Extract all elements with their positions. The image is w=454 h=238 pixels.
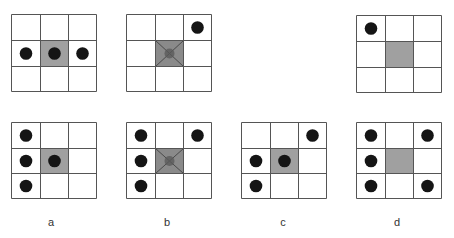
center-cell — [386, 42, 414, 68]
grid-svg — [356, 15, 442, 93]
center-faint-dot — [165, 156, 175, 166]
label-d: d — [387, 216, 407, 228]
dot — [20, 180, 33, 193]
label-a: a — [41, 216, 61, 228]
dot — [365, 129, 378, 142]
dot — [48, 155, 61, 168]
dot — [250, 155, 263, 168]
dot — [20, 47, 33, 60]
grid-top-d — [356, 15, 442, 92]
dot — [365, 155, 378, 168]
grid-svg — [126, 14, 212, 92]
dot — [135, 180, 148, 193]
grid-bottom-a — [11, 122, 97, 199]
grid-svg — [11, 14, 97, 92]
center-faint-dot — [165, 49, 175, 59]
grid-svg — [356, 122, 442, 199]
dot — [48, 47, 61, 60]
dot — [250, 180, 263, 193]
dot — [20, 155, 33, 168]
dot — [278, 155, 291, 168]
dot — [365, 180, 378, 193]
dot — [365, 22, 378, 35]
grid-bottom-b — [126, 122, 212, 199]
center-cell — [386, 149, 414, 174]
dot — [421, 180, 434, 193]
dot — [20, 129, 33, 142]
dot — [135, 155, 148, 168]
dot — [76, 47, 89, 60]
grid-bottom-c — [241, 122, 327, 199]
dot — [135, 129, 148, 142]
dot — [191, 129, 204, 142]
grid-svg — [11, 122, 97, 199]
dot — [421, 129, 434, 142]
grid-svg — [241, 122, 327, 199]
dot — [191, 21, 204, 34]
grid-top-b — [126, 14, 212, 91]
grid-bottom-d — [356, 122, 442, 199]
grid-top-a — [11, 14, 97, 91]
dot — [306, 129, 319, 142]
label-c: c — [273, 216, 293, 228]
grid-svg — [126, 122, 212, 199]
label-b: b — [157, 216, 177, 228]
